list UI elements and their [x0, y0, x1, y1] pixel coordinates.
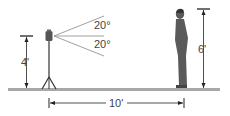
person-figure — [175, 9, 188, 88]
person-height-label: 6' — [198, 44, 206, 55]
camera-icon — [46, 31, 53, 41]
lower-angle-label: 20° — [94, 39, 111, 50]
upper-angle-label: 20° — [94, 20, 111, 31]
camera-height-label: 4' — [21, 57, 29, 68]
camera-tripod — [42, 30, 56, 90]
ground-line — [8, 88, 220, 91]
distance-label: 10' — [109, 98, 123, 109]
